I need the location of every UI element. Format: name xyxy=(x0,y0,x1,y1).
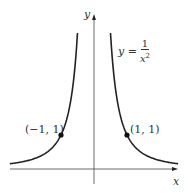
equation-label: y = 1 x2 xyxy=(118,38,150,65)
equation-fraction: 1 x2 xyxy=(140,38,150,65)
x-axis-label: x xyxy=(173,176,179,187)
equation-denominator-exp: 2 xyxy=(146,52,150,60)
graph-figure: y x y = 1 x2 (−1, 1) (1, 1) xyxy=(0,0,188,193)
point-1-1 xyxy=(124,132,129,137)
curve-left-branch xyxy=(10,33,78,164)
y-axis-label: y xyxy=(84,9,90,20)
x-axis-arrow-icon xyxy=(172,167,178,171)
point-label-neg1-1: (−1, 1) xyxy=(25,124,64,135)
equation-denominator: x2 xyxy=(140,50,150,65)
point-label-1-1: (1, 1) xyxy=(130,124,160,135)
equation-lhs: y = xyxy=(118,45,137,58)
equation-numerator: 1 xyxy=(141,38,149,50)
graph-canvas xyxy=(0,0,188,193)
y-axis-arrow-icon xyxy=(92,14,96,20)
